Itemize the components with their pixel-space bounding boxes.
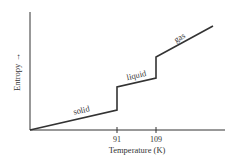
tick-label-91: 91 — [113, 135, 121, 144]
y-axis-label: Entropy → — [12, 53, 22, 91]
entropy-chart: 91 109 Temperature (K) Entropy → solid l… — [0, 0, 237, 160]
x-axis-label: Temperature (K) — [109, 145, 166, 155]
tick-label-109: 109 — [150, 135, 162, 144]
entropy-line — [30, 26, 213, 130]
phase-label-gas: gas — [172, 30, 187, 44]
phase-label-solid: solid — [72, 103, 91, 117]
